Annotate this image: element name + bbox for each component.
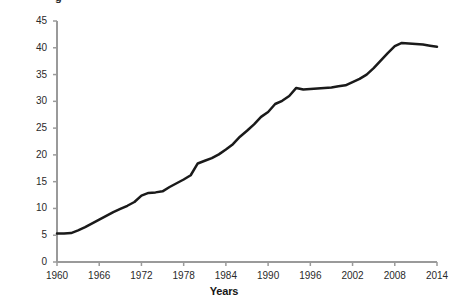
y-tick-label: 0 [25, 256, 47, 267]
y-tick-label: 20 [25, 149, 47, 160]
x-tick-label: 1972 [121, 270, 161, 281]
y-tick-label: 10 [25, 202, 47, 213]
y-tick-label: 30 [25, 95, 47, 106]
x-tick-label: 1966 [79, 270, 119, 281]
y-tick-label: 40 [25, 42, 47, 53]
x-tick-label: 1996 [290, 270, 330, 281]
y-tick-label: 45 [25, 15, 47, 26]
axis-lines [57, 21, 437, 262]
data-series-line [57, 43, 437, 234]
x-tick-label: 2014 [417, 270, 453, 281]
x-tick-label: 2008 [375, 270, 415, 281]
y-tick-label: 15 [25, 176, 47, 187]
x-tick-label: 1960 [37, 270, 77, 281]
y-tick-label: 5 [25, 229, 47, 240]
x-tick-label: 1978 [164, 270, 204, 281]
x-tick-label: 1990 [248, 270, 288, 281]
x-tick-label: 2002 [333, 270, 373, 281]
y-tick-label: 25 [25, 122, 47, 133]
y-tick-label: 35 [25, 69, 47, 80]
x-tick-label: 1984 [206, 270, 246, 281]
